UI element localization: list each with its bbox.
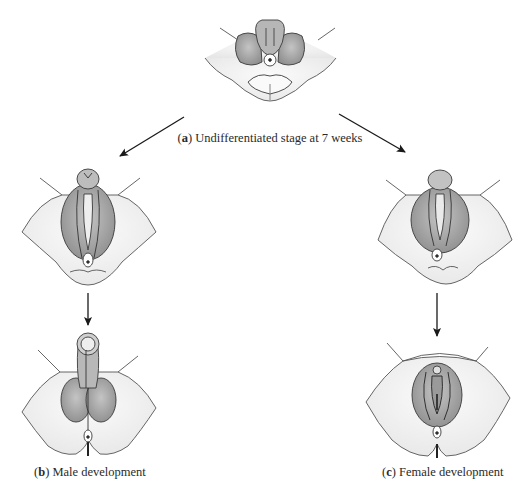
- illustration-male-development: [22, 333, 156, 456]
- caption-male-development: (b) Male development: [34, 465, 146, 480]
- development-diagram: [0, 0, 532, 488]
- illustration-female-early: [378, 170, 512, 284]
- caption-undifferentiated: (a) Undifferentiated stage at 7 weeks: [0, 131, 532, 146]
- illustration-undifferentiated: [205, 20, 336, 101]
- illustration-male-early: [22, 169, 156, 285]
- caption-female-development: (c) Female development: [382, 465, 504, 480]
- illustration-female-development: [366, 343, 510, 458]
